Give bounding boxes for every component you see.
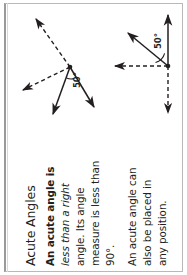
- page-title: Acute Angles: [23, 185, 38, 266]
- dashed-ray-upper-left: [36, 19, 70, 67]
- paragraph1-line-1: An acute angle is: [44, 167, 56, 266]
- paragraph2-line-2: also be placed in: [141, 180, 153, 266]
- paragraph1-line-3: angle. Its angle: [74, 187, 86, 266]
- angle-label-left: 50°: [72, 72, 82, 88]
- paragraph1-line-5: 90°.: [104, 245, 116, 266]
- angle-label-right: 50°: [153, 33, 163, 49]
- vertex-dot-left: [68, 65, 73, 70]
- page-root: 50° 50° Acute Angles An acute angle is l…: [0, 0, 187, 275]
- paragraph1-line-4: measure is less than: [89, 161, 101, 266]
- paragraph2-line-3: any position.: [156, 200, 168, 266]
- vertex-dot-right: [166, 64, 171, 69]
- paragraph1-line-2: less than a right: [59, 183, 71, 266]
- paragraph2-line-1: An acute angle can: [126, 168, 138, 266]
- acute-angle-diagram-left: [23, 19, 94, 114]
- acute-angle-diagram-right: [115, 15, 170, 113]
